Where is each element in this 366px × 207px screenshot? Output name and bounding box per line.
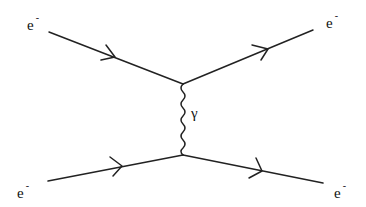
- label-electron-bottom-right: e-: [334, 184, 346, 201]
- fermion-line-top-left: [49, 32, 183, 84]
- feynman-diagram: e- e- e- e- γ: [0, 0, 366, 207]
- fermion-line-bottom-left: [48, 155, 183, 181]
- label-electron-top-left: e-: [27, 16, 39, 33]
- fermion-line-bottom-right: [183, 155, 323, 183]
- fermion-line-top-right: [183, 30, 313, 84]
- label-electron-bottom-left: e-: [17, 184, 29, 201]
- diagram-canvas: [0, 0, 366, 207]
- photon-propagator: [181, 84, 185, 155]
- label-photon-gamma: γ: [191, 106, 198, 121]
- label-electron-top-right: e-: [326, 14, 338, 31]
